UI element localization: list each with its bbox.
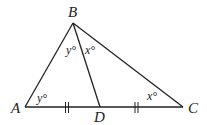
angle-label-ABD: y° [65,43,76,57]
label-point-D: D [93,109,105,125]
label-point-B: B [68,4,77,20]
angle-label-A: y° [36,91,47,105]
angle-label-DBC: x° [84,43,95,57]
segment-AB [25,23,73,107]
label-point-A: A [10,100,21,116]
angle-label-C: x° [146,89,157,103]
segment-BC [73,23,183,107]
segment-BD [73,23,100,107]
label-point-C: C [188,100,199,116]
geometry-diagram: B A C D y° x° y° x° [0,0,207,125]
